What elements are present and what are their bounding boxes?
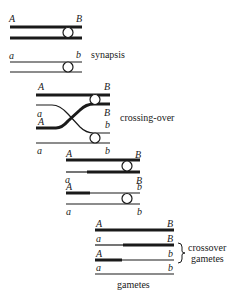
allele-label: B [104,82,110,92]
allele-label: B [104,108,110,118]
allele-label: A [66,149,72,159]
allele-label: A [38,82,44,92]
gametes-caption: gametes [117,280,150,290]
allele-label: A [66,182,72,192]
synapsis-stage [10,27,82,72]
allele-label: b [137,207,142,217]
crossing-over-caption: crossing-over [120,113,174,123]
allele-label: A [96,249,102,259]
allele-label: a [96,234,101,244]
allele-label: a [37,146,42,156]
allele-label: a [9,51,14,61]
allele-label: A [38,117,44,127]
allele-label: b [168,263,173,273]
allele-label: A [9,14,15,24]
allele-label: b [76,50,81,60]
allele-label: b [105,146,110,156]
allele-label: b [137,182,142,192]
allele-label: a [96,263,101,273]
allele-label: a [66,207,71,217]
crossover-gametes-caption-1: crossover [188,243,226,253]
synapsis-caption: synapsis [91,50,125,60]
allele-label: b [105,120,110,130]
crossing-over-stage [36,95,110,144]
allele-label: B [167,234,173,244]
allele-label: B [167,219,173,229]
allele-label: b [168,249,173,259]
allele-label: A [96,219,102,229]
recombined-stage [66,160,140,204]
allele-label: B [76,14,82,24]
crossover-gametes-caption-2: gametes [191,254,224,264]
allele-label: B [135,150,141,160]
